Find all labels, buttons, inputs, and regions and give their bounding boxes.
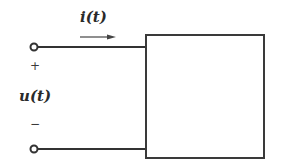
bottom-terminal-icon <box>31 146 38 153</box>
network-box <box>146 35 264 158</box>
top-terminal-icon <box>31 44 38 51</box>
current-label: i(t) <box>80 10 107 25</box>
minus-sign: − <box>30 118 40 130</box>
voltage-label: u(t) <box>19 89 51 104</box>
circuit-drawing <box>0 0 284 167</box>
current-arrow-head-icon <box>107 35 116 40</box>
plus-sign: + <box>30 60 40 72</box>
circuit-diagram: i(t) + u(t) − <box>0 0 284 167</box>
